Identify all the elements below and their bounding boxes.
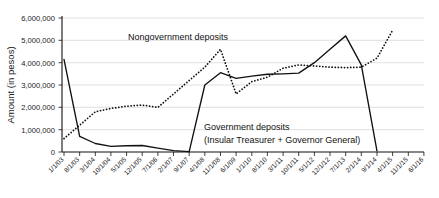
- y-tick-label-6000000: 6,000,000: [21, 14, 55, 23]
- government-deposits-label-line1: Government deposits: [204, 122, 290, 132]
- y-tick-label-4000000: 4,000,000: [21, 59, 55, 68]
- y-tick-label-5000000: 5,000,000: [21, 36, 55, 45]
- government-deposits-label-line2: (Insular Treasurer + Governor General): [204, 135, 360, 145]
- nongovernment-deposits-label: Nongovernment deposits: [128, 32, 229, 42]
- y-tick-label-2000000: 2,000,000: [21, 103, 55, 112]
- y-axis-label: Amount (in pesos): [5, 46, 16, 123]
- y-tick-label-3000000: 3,000,000: [21, 81, 55, 90]
- line-chart: 6,000,000 5,000,000 4,000,000 3,000,000 …: [0, 0, 439, 198]
- y-tick-label-0: 0: [51, 148, 55, 157]
- chart-figure: 6,000,000 5,000,000 4,000,000 3,000,000 …: [0, 0, 439, 198]
- y-tick-label-1000000: 1,000,000: [21, 126, 55, 135]
